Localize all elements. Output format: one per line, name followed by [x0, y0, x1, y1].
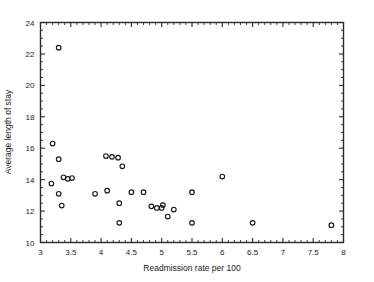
y-tick-label: 24 — [26, 19, 35, 28]
scatter-plot-figure: 33.544.555.566.577.58 1012141618202224 R… — [0, 0, 374, 282]
data-point-marker — [56, 157, 61, 162]
data-point-marker — [116, 155, 121, 160]
data-point-marker — [105, 188, 110, 193]
data-point-marker — [190, 190, 195, 195]
y-tick-label: 12 — [26, 207, 35, 216]
x-tick-label: 5 — [159, 248, 164, 257]
data-point-marker — [59, 203, 64, 208]
y-axis-tick-labels: 1012141618202224 — [26, 19, 35, 248]
x-tick-label: 4 — [99, 248, 104, 257]
x-tick-label: 6 — [220, 248, 225, 257]
x-axis-tick-labels: 33.544.555.566.577.58 — [38, 248, 346, 257]
data-point-marker — [49, 181, 54, 186]
data-points — [49, 45, 334, 227]
axes-frame — [41, 23, 344, 243]
y-axis-title: Average length of stay — [3, 89, 13, 174]
x-tick-label: 6.5 — [247, 248, 259, 257]
y-tick-label: 22 — [26, 50, 35, 59]
data-point-marker — [110, 155, 115, 160]
data-point-marker — [120, 164, 125, 169]
x-tick-label: 3 — [38, 248, 43, 257]
data-point-marker — [117, 201, 122, 206]
data-point-marker — [155, 206, 160, 211]
data-point-marker — [56, 191, 61, 196]
data-point-marker — [220, 174, 225, 179]
x-tick-label: 3.5 — [65, 248, 77, 257]
data-point-marker — [50, 141, 55, 146]
data-point-marker — [149, 204, 154, 209]
data-point-marker — [93, 191, 98, 196]
chart-canvas: 33.544.555.566.577.58 1012141618202224 R… — [0, 0, 374, 282]
tick-marks — [41, 23, 344, 243]
data-point-marker — [104, 154, 109, 159]
data-point-marker — [141, 190, 146, 195]
x-axis-title: Readmission rate per 100 — [143, 263, 241, 273]
x-tick-label: 7.5 — [308, 248, 320, 257]
y-tick-label: 10 — [26, 239, 35, 248]
x-tick-label: 4.5 — [126, 248, 138, 257]
x-tick-label: 7 — [281, 248, 286, 257]
y-tick-label: 20 — [26, 81, 35, 90]
data-point-marker — [129, 190, 134, 195]
data-point-marker — [117, 221, 122, 226]
data-point-marker — [329, 223, 334, 228]
data-point-marker — [190, 221, 195, 226]
data-point-marker — [172, 207, 177, 212]
x-tick-label: 8 — [341, 248, 346, 257]
data-point-marker — [250, 221, 255, 226]
data-point-marker — [165, 214, 170, 219]
y-tick-label: 14 — [26, 176, 35, 185]
y-tick-label: 16 — [26, 144, 35, 153]
data-point-marker — [56, 45, 61, 50]
y-tick-label: 18 — [26, 113, 35, 122]
x-tick-label: 5.5 — [186, 248, 198, 257]
